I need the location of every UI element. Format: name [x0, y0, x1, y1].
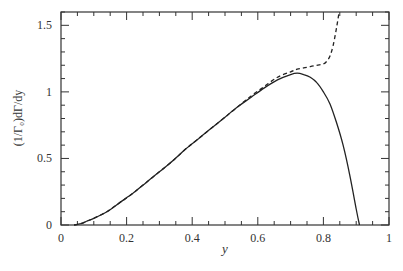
plot-border: [61, 12, 389, 225]
y-tick-label: 1.5: [37, 18, 52, 32]
x-tick-label: 0.8: [316, 231, 331, 245]
x-axis-label: y: [220, 241, 228, 256]
y-tick-label: 1: [46, 85, 52, 99]
y-tick-label: 0.5: [37, 151, 52, 165]
data-series: [74, 12, 359, 225]
plot-frame: [61, 12, 389, 225]
chart: 00.20.40.60.81 00.511.5 y (1/Γ₀)dΓ/dy: [0, 0, 403, 271]
y-axis-label: (1/Γ₀)dΓ/dy: [11, 90, 25, 147]
plot-svg: 00.20.40.60.81 00.511.5 y (1/Γ₀)dΓ/dy: [0, 0, 403, 271]
x-tick-label: 0: [58, 231, 64, 245]
x-tick-label: 0.2: [119, 231, 134, 245]
x-tick-label: 1: [386, 231, 392, 245]
series-solid-line: [74, 73, 359, 225]
y-tick-label: 0: [46, 218, 52, 232]
x-axis-ticks: 00.20.40.60.81: [58, 12, 392, 245]
series-dashed-line: [74, 12, 339, 225]
x-tick-label: 0.6: [250, 231, 265, 245]
x-tick-label: 0.4: [185, 231, 200, 245]
